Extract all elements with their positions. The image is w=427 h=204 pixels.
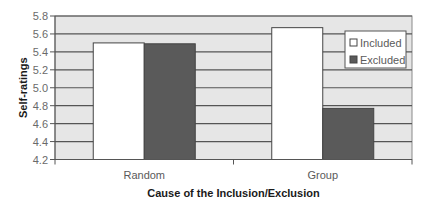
y-tick-label: 5.8: [33, 10, 48, 22]
bar-excluded-random: [144, 44, 195, 160]
bar-excluded-group: [323, 108, 374, 159]
y-axis-title: Self-ratings: [17, 57, 29, 118]
y-tick-label: 5.0: [33, 82, 48, 94]
legend-swatch-excluded: [350, 56, 357, 63]
bar-included-random: [93, 43, 144, 160]
x-category-labels: RandomGroup: [123, 169, 338, 181]
legend-label-excluded: Excluded: [360, 54, 405, 66]
x-category-label: Random: [123, 169, 165, 181]
y-tick-label: 4.4: [33, 136, 48, 148]
y-tick-labels: 4.24.44.64.85.05.25.45.65.8: [33, 10, 48, 166]
x-category-label: Group: [307, 169, 338, 181]
bar-included-group: [272, 28, 323, 160]
y-tick-label: 4.8: [33, 100, 48, 112]
legend-label-included: Included: [360, 37, 402, 49]
chart: 4.24.44.64.85.05.25.45.65.8 RandomGroup …: [0, 0, 427, 204]
y-tick-label: 5.4: [33, 46, 48, 58]
legend-swatch-included: [350, 39, 357, 46]
y-tick-label: 5.2: [33, 64, 48, 76]
x-axis-title: Cause of the Inclusion/Exclusion: [147, 187, 320, 199]
y-tick-label: 4.2: [33, 154, 48, 166]
y-tick-label: 5.6: [33, 28, 48, 40]
y-tick-label: 4.6: [33, 118, 48, 130]
legend: IncludedExcluded: [345, 31, 406, 68]
